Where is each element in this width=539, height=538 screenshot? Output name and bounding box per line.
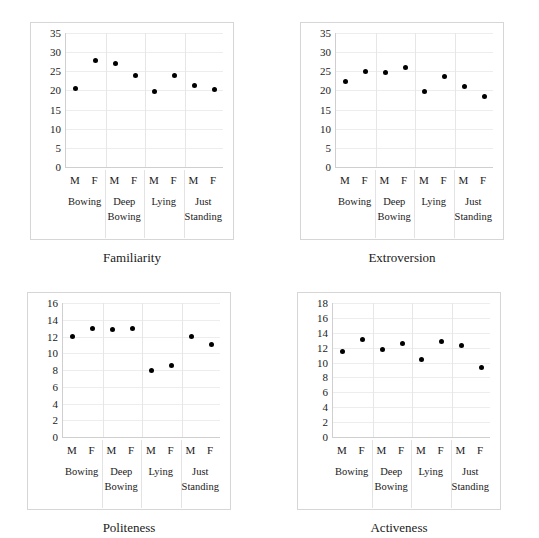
group-label-line: Deep	[105, 464, 138, 479]
y-axis-tick-label: 4	[323, 402, 334, 413]
group-separator-line	[185, 33, 186, 167]
x-tick-label-sex: M	[458, 170, 468, 190]
group-separator-line	[182, 303, 183, 437]
x-tick-label-sex: M	[70, 170, 80, 190]
x-tick-label-sex: M	[185, 440, 195, 460]
data-point	[169, 363, 174, 368]
x-tick-label-sex: M	[376, 440, 386, 460]
chart-panel: 0246810121416MFMFMFMFBowingDeepBowingLyi…	[27, 292, 231, 510]
group-label-line: Bowing	[65, 464, 98, 479]
x-axis-group-labels: BowingDeepBowingLyingJustStanding	[62, 464, 220, 506]
y-axis-tick-label: 18	[317, 298, 333, 309]
data-point	[70, 334, 75, 339]
x-tick-label-sex: F	[441, 170, 447, 190]
x-tick-label-sex: M	[146, 440, 156, 460]
x-tick-label-sex: F	[207, 440, 213, 460]
x-tick-label-group: DeepBowing	[105, 464, 138, 494]
panel-title: Politeness	[27, 520, 231, 536]
y-axis-tick-label: 5	[326, 142, 337, 153]
data-point	[479, 365, 484, 370]
y-axis-tick-label: 20	[50, 85, 66, 96]
data-point	[130, 326, 135, 331]
group-label-line: Just	[455, 194, 492, 209]
data-point	[462, 84, 467, 89]
group-label-line: Standing	[452, 479, 489, 494]
x-tick-label-group: Lying	[421, 194, 446, 209]
x-tick-label-sex: M	[106, 440, 116, 460]
group-label-line: Deep	[108, 194, 141, 209]
group-label-line: Bowing	[108, 209, 141, 224]
group-separator-line	[145, 33, 146, 167]
data-point	[113, 61, 118, 66]
x-tick-label-group: JustStanding	[455, 194, 492, 224]
data-point	[419, 357, 424, 362]
panel-title: Extroversion	[300, 250, 504, 266]
group-label-line: Just	[452, 464, 489, 479]
x-tick-label-sex: F	[128, 440, 134, 460]
x-tick-label-sex: F	[401, 170, 407, 190]
x-tick-label-group: Bowing	[68, 194, 101, 209]
y-axis-tick-label: 5	[56, 142, 67, 153]
group-separator-line	[455, 33, 456, 167]
group-label-line: Bowing	[338, 194, 371, 209]
data-point	[343, 79, 348, 84]
data-point	[340, 349, 345, 354]
x-tick-label-sex: F	[398, 440, 404, 460]
data-point	[459, 343, 464, 348]
y-axis-tick-label: 6	[53, 381, 64, 392]
x-tick-label-group: Lying	[151, 194, 176, 209]
group-label-line: Just	[182, 464, 219, 479]
group-separator-line	[415, 33, 416, 167]
x-tick-label-sex: F	[171, 170, 177, 190]
x-tick-label-group: Lying	[148, 464, 173, 479]
data-point	[149, 368, 154, 373]
y-axis-tick-label: 14	[317, 327, 333, 338]
x-tick-label-sex: F	[210, 170, 216, 190]
x-tick-label-group: Lying	[418, 464, 443, 479]
chart-panel: 05101520253035MFMFMFMFBowingDeepBowingLy…	[30, 22, 234, 240]
x-tick-label-sex: M	[455, 440, 465, 460]
data-point	[383, 70, 388, 75]
group-label-line: Lying	[151, 194, 176, 209]
x-axis-line	[62, 437, 220, 438]
x-tick-label-group: Bowing	[335, 464, 368, 479]
y-axis-tick-label: 25	[50, 66, 66, 77]
data-point	[400, 341, 405, 346]
data-point	[93, 58, 98, 63]
x-tick-label-sex: F	[362, 170, 368, 190]
group-label-line: Just	[185, 194, 222, 209]
x-tick-label-sex: F	[480, 170, 486, 190]
data-point	[212, 87, 217, 92]
figure-multi-panel-scatter: 05101520253035MFMFMFMFBowingDeepBowingLy…	[0, 0, 539, 538]
y-axis-tick-label: 20	[320, 85, 336, 96]
y-axis-tick-label: 35	[50, 28, 66, 39]
plot-frame: 0246810121416MFMFMFMFBowingDeepBowingLyi…	[27, 292, 231, 510]
plot-frame: 05101520253035MFMFMFMFBowingDeepBowingLy…	[30, 22, 234, 240]
y-axis-tick-label: 35	[320, 28, 336, 39]
y-axis-tick-label: 12	[317, 342, 333, 353]
y-axis-tick-label: 16	[47, 298, 63, 309]
panel-title: Familiarity	[30, 250, 234, 266]
data-point	[133, 73, 138, 78]
y-axis-tick-label: 25	[320, 66, 336, 77]
x-axis-line	[332, 437, 490, 438]
x-tick-label-group: JustStanding	[182, 464, 219, 494]
x-tick-label-group: DeepBowing	[378, 194, 411, 224]
y-axis-tick-label: 30	[50, 47, 66, 58]
y-axis-tick-label: 2	[53, 415, 64, 426]
data-point	[482, 94, 487, 99]
x-axis-line	[335, 167, 493, 168]
y-axis-tick-label: 15	[320, 104, 336, 115]
x-tick-label-sex: M	[67, 440, 77, 460]
x-tick-label-sex: M	[337, 440, 347, 460]
x-axis-group-labels: BowingDeepBowingLyingJustStanding	[65, 194, 223, 236]
data-point	[189, 334, 194, 339]
plot-area: 0246810121416	[62, 303, 220, 437]
x-tick-label-group: Bowing	[65, 464, 98, 479]
x-tick-label-group: DeepBowing	[375, 464, 408, 494]
group-label-line: Bowing	[68, 194, 101, 209]
group-label-line: Standing	[182, 479, 219, 494]
group-label-line: Bowing	[378, 209, 411, 224]
x-tick-label-group: JustStanding	[185, 194, 222, 224]
y-axis-tick-label: 10	[317, 357, 333, 368]
